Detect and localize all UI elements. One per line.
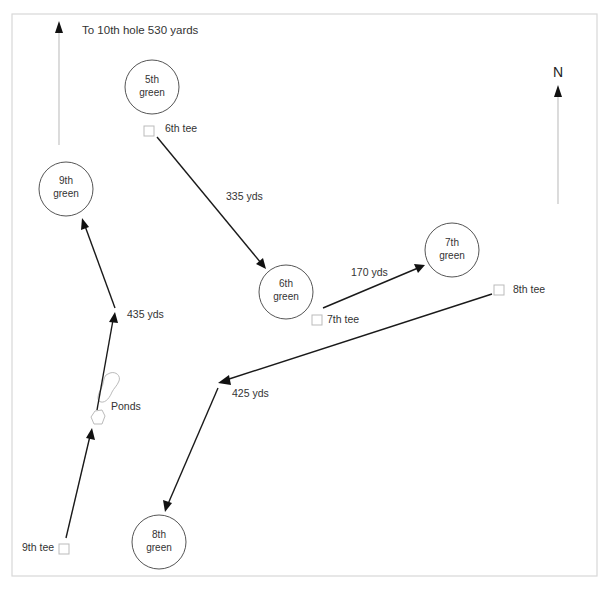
hole-8-path	[163, 294, 492, 512]
hole-6-path	[157, 137, 266, 269]
to-10th-hole-arrow	[55, 21, 63, 145]
course-map: To 10th hole 530 yards N 5th green 6th g…	[0, 0, 606, 589]
tee-6th: 6th tee	[144, 122, 197, 136]
to-10th-hole-label: To 10th hole 530 yards	[82, 24, 199, 36]
hole-8-distance: 425 yds	[232, 387, 269, 399]
green-7th: 7th green	[425, 223, 479, 277]
svg-text:7th: 7th	[445, 237, 459, 248]
green-5th: 5th green	[125, 60, 179, 114]
svg-text:8th: 8th	[152, 529, 166, 540]
north-label: N	[553, 64, 563, 80]
svg-text:6th: 6th	[279, 278, 293, 289]
svg-text:5th: 5th	[145, 74, 159, 85]
svg-text:green: green	[439, 250, 465, 261]
svg-text:9th tee: 9th tee	[22, 541, 54, 553]
tee-7th: 7th tee	[312, 313, 359, 325]
north-arrow-icon	[554, 85, 562, 204]
ponds-label: Ponds	[111, 400, 141, 412]
green-8th: 8th green	[132, 515, 186, 569]
svg-text:9th: 9th	[59, 175, 73, 186]
green-6th: 6th green	[259, 265, 313, 319]
svg-text:green: green	[139, 87, 165, 98]
svg-text:green: green	[53, 188, 79, 199]
svg-text:7th tee: 7th tee	[327, 313, 359, 325]
arrowhead-icon	[55, 21, 63, 33]
tee-8th: 8th tee	[494, 283, 545, 295]
tee-9th: 9th tee	[22, 541, 69, 554]
hole-6-distance: 335 yds	[226, 190, 263, 202]
hole-7-distance: 170 yds	[351, 266, 388, 278]
svg-text:green: green	[273, 291, 299, 302]
svg-text:green: green	[146, 542, 172, 553]
svg-text:6th tee: 6th tee	[165, 122, 197, 134]
hole-9-distance: 435 yds	[127, 308, 164, 320]
svg-text:8th tee: 8th tee	[513, 283, 545, 295]
green-9th: 9th green	[39, 162, 93, 216]
